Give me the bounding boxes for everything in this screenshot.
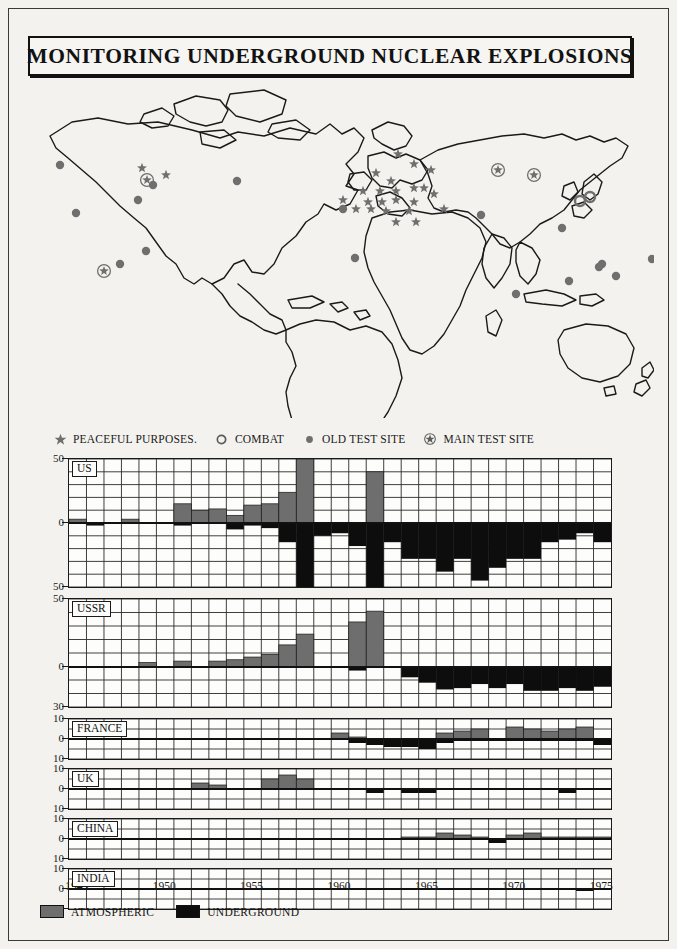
x-tick-label: 1955 xyxy=(240,880,263,892)
legend-label-combat: COMBAT xyxy=(235,433,284,445)
legend-item-old-test-site: OLD TEST SITE xyxy=(301,433,405,446)
y-tick-label: 30 xyxy=(22,701,64,711)
map-marker-filled-dot-icon xyxy=(512,290,520,298)
panel-label-us: US xyxy=(72,461,97,477)
map-marker-filled-dot-icon xyxy=(565,277,573,285)
map-marker-star-icon xyxy=(419,183,429,192)
world-map xyxy=(24,78,654,418)
map-marker-circled-star-icon xyxy=(98,265,111,278)
zero-line xyxy=(69,666,611,668)
y-tick-label: 10 xyxy=(22,813,64,823)
circled-star-icon xyxy=(422,432,438,446)
star-icon xyxy=(52,433,68,446)
map-marker-layer xyxy=(56,149,654,298)
map-marker-star-icon xyxy=(386,176,396,185)
map-marker-star-icon xyxy=(363,197,373,206)
zero-line xyxy=(69,522,611,524)
map-marker-filled-dot-icon xyxy=(72,209,80,217)
y-tick-label: 0 xyxy=(22,661,64,671)
map-marker-filled-dot-icon xyxy=(116,260,124,268)
plot-area-uk: UK xyxy=(68,768,612,810)
map-marker-filled-dot-icon xyxy=(595,263,603,271)
y-tick-label: 0 xyxy=(22,883,64,893)
series-legend-label-atmospheric: ATMOSPHERIC xyxy=(71,906,154,918)
map-marker-filled-dot-icon xyxy=(134,196,142,204)
filled-dot-icon xyxy=(301,433,317,446)
open-circle-icon xyxy=(214,433,230,446)
x-tick-label: 1975 xyxy=(590,880,613,892)
x-tick-label: 1960 xyxy=(328,880,351,892)
x-axis: 1945195019551960196519701975 xyxy=(68,880,610,896)
y-tick-label: 10 xyxy=(22,763,64,773)
map-marker-star-icon xyxy=(371,168,381,177)
legend-item-combat: COMBAT xyxy=(214,433,284,446)
y-tick-label: 50 xyxy=(22,581,64,591)
map-marker-filled-dot-icon xyxy=(477,211,485,219)
y-tick-label: 10 xyxy=(22,713,64,723)
zero-line xyxy=(69,838,611,840)
map-marker-star-icon xyxy=(358,186,368,195)
plot-area-us: US xyxy=(68,458,612,588)
map-marker-star-icon xyxy=(409,197,419,206)
map-marker-star-icon xyxy=(377,197,387,206)
map-marker-filled-dot-icon xyxy=(56,161,64,169)
map-legend: PEACEFUL PURPOSES. COMBAT OLD TEST SITE … xyxy=(52,430,652,448)
map-marker-star-icon xyxy=(161,170,171,179)
page-title: MONITORING UNDERGROUND NUCLEAR EXPLOSION… xyxy=(28,36,632,76)
map-marker-star-icon xyxy=(366,204,376,213)
map-marker-star-icon xyxy=(404,206,414,215)
map-marker-filled-dot-icon xyxy=(142,247,150,255)
series-legend-label-underground: UNDERGROUND xyxy=(207,906,299,918)
zero-line xyxy=(69,738,611,740)
chart-panels: 50050US50030USSR10010FRANCE10010UK10010C… xyxy=(24,452,654,922)
y-tick-label: 50 xyxy=(22,593,64,603)
map-marker-filled-dot-icon xyxy=(648,255,654,263)
underground-swatch xyxy=(176,905,200,918)
x-tick-label: 1950 xyxy=(153,880,176,892)
map-marker-star-icon xyxy=(411,217,421,226)
zero-line xyxy=(69,788,611,790)
legend-label-main-test-site: MAIN TEST SITE xyxy=(443,433,534,445)
bars-ussr xyxy=(69,599,611,707)
map-marker-circled-star-icon xyxy=(492,164,505,177)
map-marker-circled-star-icon xyxy=(528,169,541,182)
map-marker-open-circle-icon xyxy=(575,196,585,206)
y-tick-label: 0 xyxy=(22,517,64,527)
panel-label-france: FRANCE xyxy=(72,721,127,737)
panel-label-india: INDIA xyxy=(72,871,115,887)
map-marker-filled-dot-icon xyxy=(351,254,359,262)
y-tick-label: 10 xyxy=(22,863,64,873)
y-tick-label: 0 xyxy=(22,733,64,743)
map-marker-star-icon xyxy=(391,217,401,226)
plot-area-france: FRANCE xyxy=(68,718,612,760)
legend-item-peaceful-purposes: PEACEFUL PURPOSES. xyxy=(52,433,197,446)
x-tick-label: 1965 xyxy=(415,880,438,892)
map-marker-filled-dot-icon xyxy=(233,177,241,185)
legend-item-main-test-site: MAIN TEST SITE xyxy=(422,432,534,446)
legend-label-peaceful-purposes: PEACEFUL PURPOSES. xyxy=(73,433,197,445)
map-marker-star-icon xyxy=(338,195,348,204)
x-tick-label: 1970 xyxy=(502,880,525,892)
y-tick-label: 50 xyxy=(22,453,64,463)
plot-area-china: CHINA xyxy=(68,818,612,860)
legend-label-old-test-site: OLD TEST SITE xyxy=(322,433,405,445)
series-legend-item-underground: UNDERGROUND xyxy=(176,905,299,918)
page-title-text: MONITORING UNDERGROUND NUCLEAR EXPLOSION… xyxy=(27,44,632,69)
map-marker-star-icon xyxy=(137,163,147,172)
panel-label-uk: UK xyxy=(72,771,99,787)
panel-label-ussr: USSR xyxy=(72,601,111,617)
map-marker-filled-dot-icon xyxy=(558,224,566,232)
plot-area-ussr: USSR xyxy=(68,598,612,708)
infographic-page: MONITORING UNDERGROUND NUCLEAR EXPLOSION… xyxy=(0,0,677,949)
y-tick-label: 0 xyxy=(22,783,64,793)
panel-label-china: CHINA xyxy=(72,821,118,837)
map-marker-star-icon xyxy=(409,159,419,168)
map-marker-circled-star-icon xyxy=(141,174,154,187)
map-marker-star-icon xyxy=(351,204,361,213)
map-marker-filled-dot-icon xyxy=(339,205,347,213)
map-marker-filled-dot-icon xyxy=(612,272,620,280)
world-map-svg xyxy=(24,78,654,418)
y-tick-label: 0 xyxy=(22,833,64,843)
coastlines xyxy=(50,90,654,418)
atmospheric-swatch xyxy=(40,905,64,918)
